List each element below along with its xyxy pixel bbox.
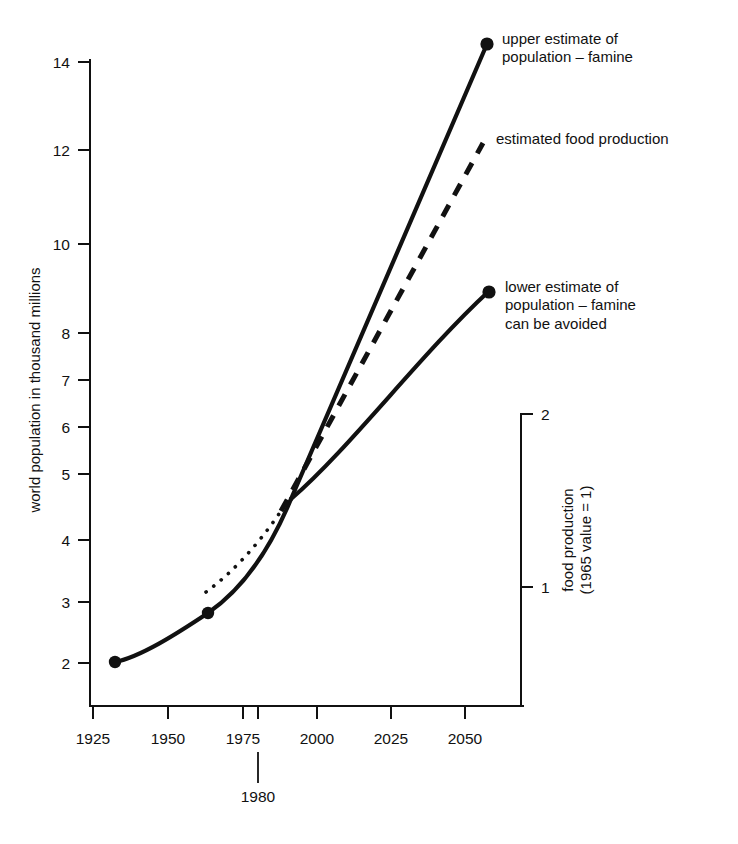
x-axis: 1925 1950 1975 2000 2025 2050 1980 [76, 706, 523, 805]
x-tick-label-1925: 1925 [76, 730, 110, 747]
marker-1930-pop-2 [109, 656, 121, 668]
marker-upper-estimate-endpoint [480, 37, 493, 50]
y-tick-label-4: 4 [61, 532, 70, 549]
annotation-upper-estimate: upper estimate of population – famine [502, 30, 717, 67]
y-tick-label-10: 10 [53, 236, 71, 253]
y-tick-label-7: 7 [61, 372, 70, 389]
x-callout-label-1980: 1980 [241, 788, 276, 805]
series-lower-estimate [291, 292, 488, 499]
y-tick-label-3: 3 [61, 594, 70, 611]
y2-axis-title-line2: (1965 value = 1) [577, 486, 594, 595]
y-tick-label-8: 8 [61, 325, 70, 342]
y2-axis-title-line1: food production [559, 488, 576, 591]
marker-lower-estimate-endpoint [482, 285, 495, 298]
y2-tick-label-1: 1 [541, 579, 550, 596]
annotation-estimated-food-production: estimated food production [496, 130, 726, 148]
y-axis-right: 2 1 food production (1965 value = 1) [521, 406, 594, 706]
y-tick-label-5: 5 [61, 466, 70, 483]
y-tick-label-6: 6 [61, 419, 70, 436]
series-historical-population [115, 499, 291, 662]
y-tick-label-12: 12 [53, 142, 70, 159]
y-tick-label-14: 14 [53, 54, 71, 71]
x-tick-label-2000: 2000 [300, 730, 335, 747]
y-tick-label-2: 2 [61, 655, 70, 672]
y2-tick-label-2: 2 [541, 406, 550, 423]
x-tick-label-2050: 2050 [448, 730, 483, 747]
chart-canvas: 14 12 10 8 7 6 5 4 3 2 world population … [0, 0, 738, 844]
x-tick-label-2025: 2025 [374, 730, 408, 747]
x-tick-label-1975: 1975 [226, 730, 260, 747]
annotation-lower-estimate: lower estimate of population – famine ca… [505, 278, 720, 333]
marker-1960-pop-3 [202, 607, 214, 619]
y-axis-left: 14 12 10 8 7 6 5 4 3 2 world population … [26, 54, 90, 706]
x-tick-label-1950: 1950 [151, 730, 186, 747]
series-upper-estimate [291, 44, 487, 499]
chart-figure: 14 12 10 8 7 6 5 4 3 2 world population … [0, 0, 738, 844]
y-axis-title: world population in thousand millions [26, 267, 43, 513]
